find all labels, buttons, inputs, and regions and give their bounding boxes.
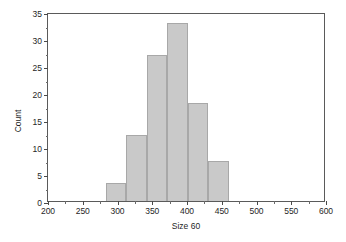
histogram-bar <box>167 23 188 201</box>
x-tick-minor <box>274 201 275 204</box>
y-tick-mark <box>44 95 48 96</box>
bar-series <box>48 14 324 201</box>
x-tick-mark <box>291 201 292 205</box>
x-tick-minor <box>100 201 101 204</box>
y-tick-minor <box>46 190 49 191</box>
x-axis-label: Size 60 <box>47 222 325 231</box>
x-tick-label: 550 <box>284 207 298 216</box>
x-tick-minor <box>239 201 240 204</box>
x-tick-mark <box>83 201 84 205</box>
x-tick-minor <box>204 201 205 204</box>
y-tick-label: 5 <box>37 172 42 181</box>
y-tick-label: 30 <box>33 37 42 46</box>
x-tick-label: 250 <box>76 207 90 216</box>
x-tick-mark <box>152 201 153 205</box>
histogram-bar <box>106 183 127 201</box>
histogram-bar <box>126 135 147 201</box>
y-tick-label: 15 <box>33 118 42 127</box>
histogram-chart: 05101520253035 2002503003504004505005506… <box>0 0 346 242</box>
x-tick-label: 350 <box>145 207 159 216</box>
x-tick-label: 450 <box>215 207 229 216</box>
plot-area: 05101520253035 2002503003504004505005506… <box>47 13 325 202</box>
y-tick-mark <box>44 41 48 42</box>
y-tick-label: 20 <box>33 91 42 100</box>
y-tick-label: 35 <box>33 10 42 19</box>
histogram-bar <box>188 103 209 201</box>
y-tick-mark <box>44 68 48 69</box>
x-tick-label: 300 <box>110 207 124 216</box>
x-tick-label: 500 <box>249 207 263 216</box>
y-tick-minor <box>46 28 49 29</box>
y-tick-mark <box>44 122 48 123</box>
y-tick-minor <box>46 163 49 164</box>
histogram-bar <box>208 161 229 202</box>
x-tick-mark <box>187 201 188 205</box>
y-tick-label: 10 <box>33 145 42 154</box>
x-tick-mark <box>48 201 49 205</box>
x-tick-label: 600 <box>319 207 333 216</box>
x-tick-minor <box>135 201 136 204</box>
x-tick-mark <box>257 201 258 205</box>
x-tick-minor <box>170 201 171 204</box>
y-tick-minor <box>46 82 49 83</box>
x-tick-label: 400 <box>180 207 194 216</box>
x-tick-label: 200 <box>41 207 55 216</box>
x-tick-mark <box>222 201 223 205</box>
histogram-bar <box>147 55 168 201</box>
x-tick-minor <box>309 201 310 204</box>
y-tick-label: 25 <box>33 64 42 73</box>
y-axis-label: Count <box>14 110 23 133</box>
x-tick-mark <box>326 201 327 205</box>
y-tick-minor <box>46 136 49 137</box>
y-tick-mark <box>44 149 48 150</box>
x-tick-mark <box>118 201 119 205</box>
x-tick-minor <box>65 201 66 204</box>
y-tick-mark <box>44 14 48 15</box>
y-tick-minor <box>46 55 49 56</box>
y-tick-mark <box>44 176 48 177</box>
y-tick-minor <box>46 109 49 110</box>
